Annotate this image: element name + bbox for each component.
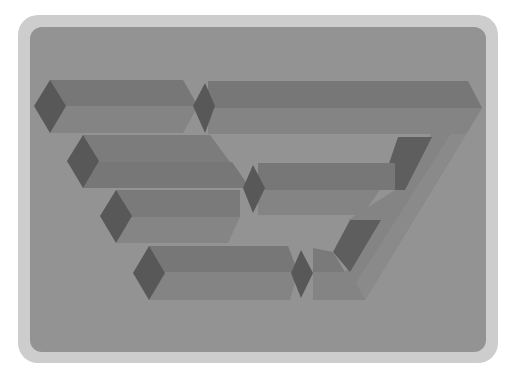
row3-bar-top bbox=[116, 190, 240, 217]
bottom-bar-top bbox=[149, 246, 298, 272]
top-bar-left-top bbox=[50, 80, 198, 106]
top-bar-left-front bbox=[50, 106, 198, 133]
mid-bar-right-front bbox=[258, 190, 380, 215]
joint-diamond bbox=[291, 250, 313, 298]
row2-bar-front bbox=[83, 162, 250, 188]
row3-bar-front bbox=[116, 217, 240, 243]
bottom-bar-front bbox=[149, 272, 298, 300]
top-bar-right-top bbox=[208, 81, 482, 108]
row2-bar-top bbox=[83, 135, 230, 162]
top-bar-right-front bbox=[208, 108, 482, 134]
impossible-figure bbox=[0, 0, 515, 375]
mid-bar-right-top bbox=[258, 163, 395, 190]
